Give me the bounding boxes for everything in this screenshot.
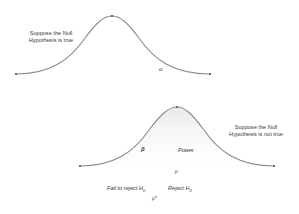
left-endpoint-dot xyxy=(15,73,17,75)
power-label: Power xyxy=(178,147,194,154)
h0-subscript: 0 xyxy=(143,188,145,193)
mu-star-symbol: μ* xyxy=(152,195,157,201)
h0-subscript: 0 xyxy=(189,188,191,193)
null-true-label: Suppose the Null Hypothesis is true xyxy=(22,30,80,44)
null-not-true-label-line2: Hypothesis is not true xyxy=(224,131,288,138)
null-not-true-label: Suppose the Null Hypothesis is not true xyxy=(224,124,288,138)
null-true-label-line1: Suppose the Null xyxy=(22,30,80,37)
right-endpoint-dot xyxy=(273,165,275,167)
null-not-true-label-line1: Suppose the Null xyxy=(224,124,288,131)
reject-label: Reject H0 xyxy=(168,185,192,195)
peak-dot xyxy=(176,106,178,108)
shaded-area xyxy=(80,107,274,176)
peak-dot xyxy=(111,15,113,17)
fail-to-reject-text: Fail to reject H xyxy=(107,185,143,191)
fail-to-reject-label: Fail to reject H0 xyxy=(107,185,145,195)
right-endpoint-dot xyxy=(209,73,211,75)
null-distribution-curve xyxy=(15,15,211,75)
alpha-symbol: α xyxy=(159,66,162,72)
alternative-distribution-curve xyxy=(79,106,275,176)
null-true-label-line2: Hypothesis is true xyxy=(22,37,80,44)
left-endpoint-dot xyxy=(79,165,81,167)
beta-symbol: β xyxy=(141,146,145,152)
mu-symbol: μ xyxy=(175,168,178,174)
reject-text: Reject H xyxy=(168,185,189,191)
